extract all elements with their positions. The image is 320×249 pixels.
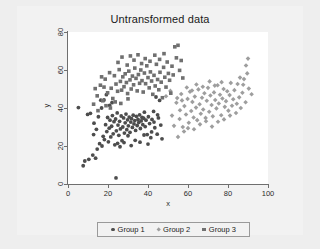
data-point (229, 81, 234, 86)
data-point (177, 117, 182, 122)
legend-entry-3[interactable]: Group 3 (202, 225, 236, 234)
data-point (159, 80, 163, 84)
data-point (97, 115, 101, 119)
data-point (114, 176, 118, 180)
data-point (146, 142, 150, 146)
data-point (109, 135, 113, 139)
data-point (134, 77, 138, 81)
data-point (202, 91, 207, 96)
data-point (206, 86, 211, 91)
data-point (128, 78, 132, 82)
data-point (153, 126, 157, 130)
data-point (144, 118, 148, 122)
data-point (174, 100, 179, 105)
data-point (122, 116, 126, 120)
data-point (235, 82, 240, 87)
data-point (180, 98, 185, 103)
data-point (197, 102, 202, 107)
data-point (207, 79, 212, 84)
data-point (163, 75, 167, 79)
data-point (129, 87, 133, 91)
data-point (140, 79, 144, 83)
data-point (234, 111, 239, 116)
legend-entry-2[interactable]: Group 2 (157, 225, 191, 234)
data-point (165, 60, 169, 64)
data-point (167, 72, 171, 76)
data-point (210, 124, 215, 129)
data-point (149, 70, 153, 74)
data-point (162, 66, 166, 70)
data-point (218, 92, 223, 97)
data-point (113, 74, 117, 78)
data-point (95, 147, 99, 151)
data-point (175, 56, 179, 60)
data-point (106, 91, 110, 95)
data-point (111, 114, 115, 118)
data-point (201, 107, 206, 112)
data-point (77, 106, 81, 110)
data-point (120, 88, 124, 92)
data-point (143, 125, 147, 129)
data-point (223, 105, 228, 110)
y-tick-label: 20 (56, 139, 65, 153)
data-point (100, 75, 104, 79)
data-point (118, 119, 122, 123)
data-point (240, 91, 245, 96)
data-point (129, 120, 133, 124)
data-point (237, 95, 242, 100)
data-point (147, 86, 151, 90)
data-point (119, 80, 123, 84)
data-point (127, 124, 131, 128)
y-tick-label: 60 (56, 63, 65, 77)
data-point (189, 109, 194, 114)
data-point (116, 61, 120, 65)
data-point (116, 123, 120, 127)
data-point (140, 62, 144, 66)
y-tick-label: 0 (56, 177, 65, 191)
x-axis-label: x (68, 199, 268, 208)
data-point (113, 100, 117, 104)
data-point (117, 133, 121, 137)
data-point (128, 130, 132, 134)
data-point (170, 64, 174, 68)
y-axis-line (67, 31, 68, 185)
data-point (227, 93, 232, 98)
data-point (160, 137, 164, 141)
data-point (107, 140, 111, 144)
y-axis-label: y (42, 104, 51, 108)
data-point (219, 80, 224, 85)
data-point (235, 102, 240, 107)
x-tick-mark (228, 185, 229, 188)
data-point (184, 112, 189, 117)
data-point (136, 53, 140, 57)
data-point (179, 59, 183, 63)
data-point (114, 117, 118, 121)
data-point (214, 106, 219, 111)
data-point (123, 131, 127, 135)
x-tick-mark (108, 185, 109, 188)
data-point (127, 69, 131, 73)
data-point (158, 58, 162, 62)
legend-entry-1[interactable]: Group 1 (111, 225, 145, 234)
data-point (152, 120, 156, 124)
data-point (199, 111, 204, 116)
data-point (95, 94, 99, 98)
data-point (129, 144, 133, 148)
data-point (83, 159, 87, 163)
data-point (131, 74, 135, 78)
x-tick-mark (68, 185, 69, 188)
data-point (92, 102, 96, 106)
data-point (200, 95, 205, 100)
x-tick-mark (268, 185, 269, 188)
data-point (129, 54, 133, 58)
data-point (178, 108, 183, 113)
data-point (89, 111, 93, 115)
data-point (143, 71, 147, 75)
data-point (217, 101, 222, 106)
data-point (182, 129, 187, 134)
data-point (153, 53, 157, 57)
data-point (249, 92, 254, 97)
data-point (201, 84, 206, 89)
data-point (242, 77, 247, 82)
data-point (193, 94, 198, 99)
